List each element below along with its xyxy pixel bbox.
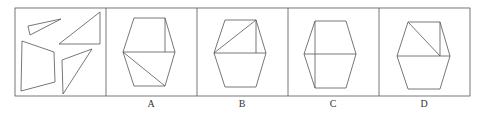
piece-triangle xyxy=(62,49,92,94)
option-c-figure xyxy=(304,21,356,88)
stem-panel xyxy=(21,12,100,94)
option-b-label[interactable]: B xyxy=(232,98,252,109)
option-a-label[interactable]: A xyxy=(141,98,161,109)
option-c-label[interactable]: C xyxy=(323,98,343,109)
option-d-figure xyxy=(397,22,450,89)
option-d-label[interactable]: D xyxy=(414,98,434,109)
piece-quadrilateral xyxy=(21,41,55,91)
option-a-figure xyxy=(123,18,175,86)
option-b-figure xyxy=(214,20,266,87)
piece-small-triangle xyxy=(28,19,61,35)
piece-right-triangle xyxy=(59,12,100,44)
